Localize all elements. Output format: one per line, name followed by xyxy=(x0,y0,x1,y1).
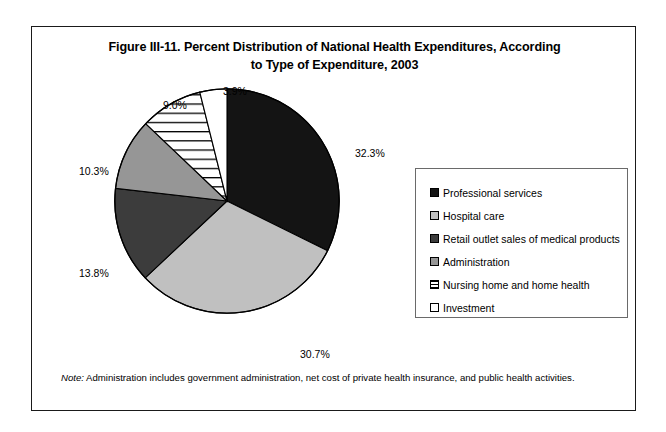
pie-label-nursing-home: 9.0% xyxy=(163,99,187,111)
legend-item-retail-outlet-sales[interactable]: Retail outlet sales of medical products xyxy=(430,227,627,250)
legend-item-professional-services[interactable]: Professional services xyxy=(430,181,627,204)
pie-label-hospital-care: 30.7% xyxy=(300,348,330,360)
legend-label-administration: Administration xyxy=(443,256,510,268)
figure-note-label: Note: xyxy=(61,372,84,383)
legend-swatch-hospital-care xyxy=(430,211,439,220)
pie-label-retail-outlet-sales: 13.8% xyxy=(79,267,109,279)
legend-item-hospital-care[interactable]: Hospital care xyxy=(430,204,627,227)
legend-item-investment[interactable]: Investment xyxy=(430,296,627,319)
legend-label-nursing-home: Nursing home and home health xyxy=(443,279,590,291)
legend-label-professional-services: Professional services xyxy=(443,187,542,199)
legend-label-investment: Investment xyxy=(443,302,494,314)
figure-frame: Figure III-11. Percent Distribution of N… xyxy=(31,26,636,411)
pie-label-administration: 10.3% xyxy=(79,165,109,177)
chart-legend: Professional services Hospital care Reta… xyxy=(415,168,628,318)
pie-label-investment: 3.9% xyxy=(223,85,247,97)
pie-slice-group xyxy=(115,89,339,313)
legend-label-retail-outlet-sales: Retail outlet sales of medical products xyxy=(443,233,620,245)
figure-note-text: Administration includes government admin… xyxy=(86,372,574,383)
pie-label-professional-services: 32.3% xyxy=(355,147,385,159)
legend-item-nursing-home[interactable]: Nursing home and home health xyxy=(430,273,627,296)
legend-swatch-nursing-home xyxy=(430,280,439,289)
figure-note: Note: Administration includes government… xyxy=(61,372,621,383)
pie-chart xyxy=(111,85,343,317)
legend-swatch-professional-services xyxy=(430,188,439,197)
legend-swatch-investment xyxy=(430,303,439,312)
legend-item-administration[interactable]: Administration xyxy=(430,250,627,273)
legend-label-hospital-care: Hospital care xyxy=(443,210,504,222)
legend-swatch-retail-outlet-sales xyxy=(430,234,439,243)
pie-chart-area: 32.3% 30.7% 13.8% 10.3% 9.0% 3.9% Profes… xyxy=(32,27,637,412)
legend-swatch-administration xyxy=(430,257,439,266)
